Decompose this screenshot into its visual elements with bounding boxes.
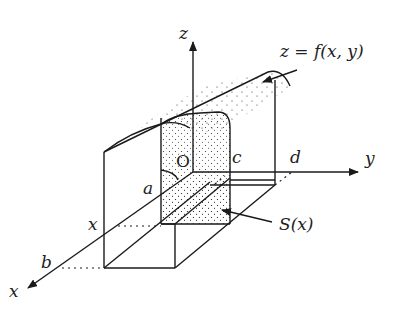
d-label: d [290,147,301,167]
a-label: a [143,178,153,198]
volume-by-cross-section-diagram: z y x O a b c d x z = f(x, y) S(x) [0,0,401,311]
b-label: b [41,252,52,272]
x-section-label: x [88,214,98,234]
x-axis-label: x [9,281,19,301]
c-label: c [232,147,242,167]
surface-label: z = f(x, y) [279,41,364,61]
axes [28,42,358,288]
origin-label: O [176,151,190,171]
cross-section-label: S(x) [279,214,314,234]
x-axis [28,172,193,288]
z-axis-label: z [178,23,189,43]
y-axis-label: y [364,148,375,168]
